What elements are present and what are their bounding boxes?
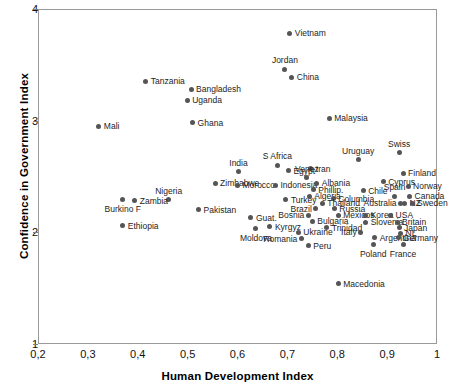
data-point-label: Jordan bbox=[272, 56, 298, 65]
data-point-label: Spain bbox=[384, 183, 406, 192]
data-point-label: Tanzania bbox=[151, 77, 185, 86]
data-point bbox=[395, 220, 400, 225]
data-point bbox=[320, 201, 325, 206]
x-tick-label: 0,2 bbox=[30, 349, 45, 360]
plot-area: VietnamTanzaniaJordanChinaBangladeshUgan… bbox=[38, 9, 437, 344]
data-point bbox=[307, 194, 312, 199]
data-point bbox=[336, 281, 341, 286]
data-point-label: India bbox=[229, 159, 247, 168]
data-point bbox=[196, 207, 201, 212]
data-point-label: Peru bbox=[313, 241, 331, 250]
data-point bbox=[120, 223, 125, 228]
data-point bbox=[396, 235, 401, 240]
data-point-label: Uruguay bbox=[342, 147, 374, 156]
data-point-label: Bosnia bbox=[278, 211, 304, 220]
data-point-label: Italy bbox=[341, 228, 357, 237]
y-tick-mark bbox=[33, 121, 38, 122]
data-point bbox=[96, 124, 101, 129]
data-point-label: China bbox=[297, 73, 319, 82]
data-point bbox=[273, 183, 278, 188]
data-point bbox=[189, 87, 194, 92]
data-point-label: Swiss bbox=[388, 140, 410, 149]
data-point bbox=[143, 79, 148, 84]
x-tick-label: 0,5 bbox=[180, 349, 195, 360]
data-point-label: Bangladesh bbox=[196, 85, 241, 94]
x-tick-label: 0,6 bbox=[230, 349, 245, 360]
data-point-label: Malaysia bbox=[334, 114, 368, 123]
x-tick-label: 0,4 bbox=[130, 349, 145, 360]
data-point bbox=[327, 116, 332, 121]
data-point-label: Australia bbox=[364, 199, 397, 208]
data-point-label: S Africa bbox=[263, 152, 292, 161]
data-point bbox=[275, 163, 280, 168]
data-point bbox=[185, 98, 190, 103]
data-point-label: Uganda bbox=[192, 96, 222, 105]
x-tick-label: 1 bbox=[434, 349, 440, 360]
data-point bbox=[401, 242, 406, 247]
data-point bbox=[401, 171, 406, 176]
x-axis-title: Human Development Index bbox=[38, 370, 437, 382]
data-point bbox=[253, 226, 258, 231]
y-tick-mark bbox=[33, 344, 38, 345]
data-point-label: Guat. bbox=[256, 213, 277, 222]
data-point bbox=[190, 120, 195, 125]
data-point bbox=[356, 157, 361, 162]
data-point bbox=[306, 243, 311, 248]
data-point-label: Venez bbox=[295, 165, 319, 174]
data-point-label: Sweden bbox=[417, 199, 448, 208]
data-point bbox=[132, 198, 137, 203]
data-point bbox=[267, 224, 272, 229]
data-point bbox=[286, 168, 291, 173]
data-point bbox=[363, 220, 368, 225]
data-point bbox=[397, 150, 402, 155]
data-point bbox=[310, 219, 315, 224]
data-point bbox=[397, 225, 402, 230]
data-point bbox=[287, 31, 292, 36]
data-point-label: Ghana bbox=[198, 118, 224, 127]
data-point bbox=[372, 235, 377, 240]
data-point-label: Norway bbox=[413, 182, 442, 191]
data-point bbox=[358, 230, 363, 235]
data-point bbox=[299, 236, 304, 241]
data-point bbox=[410, 201, 415, 206]
data-point bbox=[248, 215, 253, 220]
x-tick-label: 0,3 bbox=[80, 349, 95, 360]
data-point-label: Macedonia bbox=[343, 279, 385, 288]
data-point-label: Mali bbox=[104, 122, 120, 131]
data-point bbox=[289, 75, 294, 80]
data-point-label: Romania bbox=[263, 234, 297, 243]
x-tick-label: 0,8 bbox=[330, 349, 345, 360]
data-point bbox=[371, 242, 376, 247]
data-point bbox=[306, 213, 311, 218]
x-tick-label: 0,7 bbox=[280, 349, 295, 360]
data-point bbox=[236, 169, 241, 174]
data-point-label: Germany bbox=[403, 233, 438, 242]
data-point bbox=[282, 67, 287, 72]
y-tick-mark bbox=[33, 9, 38, 10]
data-point-label: Zambia bbox=[140, 196, 168, 205]
data-point bbox=[283, 197, 288, 202]
data-point-label: Pakistan bbox=[204, 205, 237, 214]
data-point-label: Burkino F bbox=[105, 205, 141, 214]
data-point bbox=[332, 206, 337, 211]
data-point bbox=[213, 181, 218, 186]
scatter-chart-figure: 4321 VietnamTanzaniaJordanChinaBanglades… bbox=[0, 0, 452, 390]
data-point-label: France bbox=[390, 250, 416, 259]
data-point bbox=[402, 201, 407, 206]
data-point-label: Poland bbox=[360, 250, 386, 259]
data-point-label: Ukraine bbox=[303, 228, 332, 237]
data-point bbox=[313, 206, 318, 211]
data-point bbox=[120, 197, 125, 202]
data-point-label: Ethiopia bbox=[128, 221, 159, 230]
data-point-label: Morocco bbox=[243, 181, 276, 190]
data-point-label: Vietnam bbox=[295, 29, 326, 38]
data-point bbox=[235, 183, 240, 188]
data-point bbox=[406, 184, 411, 189]
x-tick-label: 0,9 bbox=[379, 349, 394, 360]
y-axis-title: Confidence in Government Index bbox=[18, 46, 30, 286]
y-tick-mark bbox=[33, 232, 38, 233]
